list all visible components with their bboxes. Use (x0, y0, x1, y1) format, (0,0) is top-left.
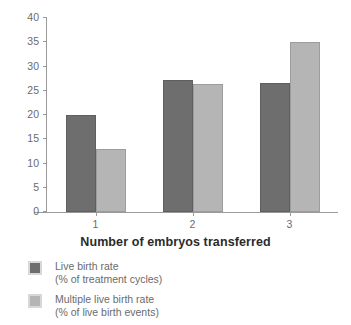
y-axis-tick-label: 10 (27, 157, 39, 169)
plot-area (47, 18, 338, 212)
y-axis-tick-label: 35 (27, 35, 39, 47)
legend-label-secondary: (% of treatment cycles) (55, 273, 162, 286)
y-axis-tick-label: 20 (27, 108, 39, 120)
legend-label-secondary: (% of live birth events) (55, 306, 159, 319)
x-axis-tick-mark (290, 212, 291, 216)
x-axis-tick-label: 3 (278, 218, 302, 230)
legend-swatch-multiple-live-birth-rate (28, 294, 42, 308)
x-axis-title: Number of embryos transferred (0, 235, 351, 249)
legend-item: Multiple live birth rate (% of live birt… (28, 293, 328, 319)
y-axis-tick-label: 40 (27, 11, 39, 23)
legend-label-primary: Live birth rate (55, 260, 162, 273)
chart-legend: Live birth rate (% of treatment cycles) … (28, 260, 328, 325)
bar (260, 83, 290, 212)
x-axis-tick-mark (96, 212, 97, 216)
y-axis-tick-label: 25 (27, 84, 39, 96)
x-axis-tick-label: 2 (181, 218, 205, 230)
bar (193, 84, 223, 212)
bar (96, 149, 126, 212)
bar (290, 42, 320, 212)
legend-item: Live birth rate (% of treatment cycles) (28, 260, 328, 286)
x-axis-tick-label: 1 (84, 218, 108, 230)
legend-label: Live birth rate (% of treatment cycles) (55, 260, 162, 286)
legend-label: Multiple live birth rate (% of live birt… (55, 293, 159, 319)
y-axis-tick-label: 15 (27, 132, 39, 144)
y-axis-tick-label: 30 (27, 60, 39, 72)
x-axis-line (34, 212, 338, 213)
bar-chart-figure: 0510152025303540 123 Number of embryos t… (0, 0, 351, 325)
y-axis-tick-label: 5 (33, 181, 39, 193)
legend-label-primary: Multiple live birth rate (55, 293, 159, 306)
legend-swatch-live-birth-rate (28, 261, 42, 275)
bar (163, 80, 193, 212)
x-axis-tick-mark (193, 212, 194, 216)
bar (66, 115, 96, 212)
y-axis-tick-label: 0 (33, 205, 39, 217)
